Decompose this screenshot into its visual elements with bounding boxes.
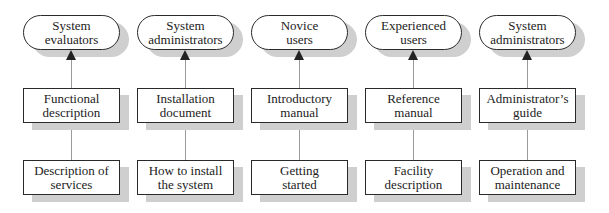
arrowhead-icon bbox=[408, 50, 418, 60]
column-1: Systemevaluators Functionaldescription D… bbox=[23, 0, 123, 213]
arrowhead-icon bbox=[294, 50, 304, 60]
arrowhead-icon bbox=[180, 50, 190, 60]
column-2: Systemadministrators Installationdocumen… bbox=[137, 0, 237, 213]
document-box: Referencemanual bbox=[365, 88, 462, 123]
audience-oval: Experiencedusers bbox=[365, 15, 462, 50]
content-box: Gettingstarted bbox=[251, 160, 348, 195]
arrowhead-icon bbox=[66, 50, 76, 60]
column-4: Experiencedusers Referencemanual Facilit… bbox=[365, 0, 465, 213]
arrowhead-icon bbox=[522, 50, 532, 60]
content-box: Operation andmaintenance bbox=[479, 160, 576, 195]
content-box: Facilitydescription bbox=[365, 160, 462, 195]
audience-oval: Noviceusers bbox=[251, 15, 348, 50]
document-box: Introductorymanual bbox=[251, 88, 348, 123]
audience-oval: Systemevaluators bbox=[23, 15, 120, 50]
column-3: Noviceusers Introductorymanual Gettingst… bbox=[251, 0, 351, 213]
audience-oval: Systemadministrators bbox=[137, 15, 234, 50]
document-box: Installationdocument bbox=[137, 88, 234, 123]
audience-oval: Systemadministrators bbox=[479, 15, 576, 50]
column-5: Systemadministrators Administrator’sguid… bbox=[479, 0, 579, 213]
content-box: Description ofservices bbox=[23, 160, 120, 195]
content-box: How to installthe system bbox=[137, 160, 234, 195]
document-box: Administrator’sguide bbox=[479, 88, 576, 123]
document-box: Functionaldescription bbox=[23, 88, 120, 123]
